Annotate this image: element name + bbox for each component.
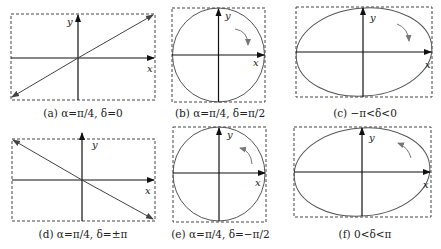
polarization-line <box>78 15 153 58</box>
svg-text:y: y <box>91 139 98 150</box>
caption-c: (c) −π<δ<0 <box>310 107 420 119</box>
svg-text:x: x <box>145 185 151 196</box>
panel-d: y x <box>12 133 155 221</box>
rotation-arrow-counterclockwise <box>398 143 411 158</box>
svg-text:x: x <box>423 179 429 190</box>
svg-text:y: y <box>66 16 73 27</box>
polarization-line <box>13 140 82 180</box>
frame <box>11 14 155 100</box>
svg-text:x: x <box>255 177 261 188</box>
svg-text:x: x <box>425 59 431 70</box>
panel-a: y x <box>11 14 155 100</box>
panel-c: y x <box>292 2 435 102</box>
polarization-figure: y x y x y x y x y x <box>0 0 441 249</box>
panel-e: y x <box>173 127 266 222</box>
svg-text:y: y <box>368 132 375 143</box>
svg-text:y: y <box>224 10 231 21</box>
polarization-line <box>82 180 153 219</box>
svg-text:x: x <box>147 63 153 74</box>
caption-f: (f) 0<δ<π <box>310 228 420 240</box>
rotation-arrow-counterclockwise <box>240 148 252 164</box>
panel-b: y x <box>172 8 265 102</box>
caption-d: (d) α=π/4, δ=±π <box>28 228 138 240</box>
svg-text:y: y <box>226 129 233 140</box>
caption-b: (b) α=π/4, δ=π/2 <box>160 107 280 119</box>
svg-text:x: x <box>253 57 259 68</box>
svg-text:y: y <box>369 12 376 23</box>
caption-a: (a) α=π/4, δ=0 <box>28 107 138 119</box>
caption-e: (e) α=π/4, δ=−π/2 <box>158 228 283 240</box>
panel-f: y x <box>290 122 433 222</box>
rotation-arrow-clockwise <box>397 24 409 41</box>
polarization-line <box>12 58 78 97</box>
rotation-arrow-clockwise <box>235 29 248 45</box>
